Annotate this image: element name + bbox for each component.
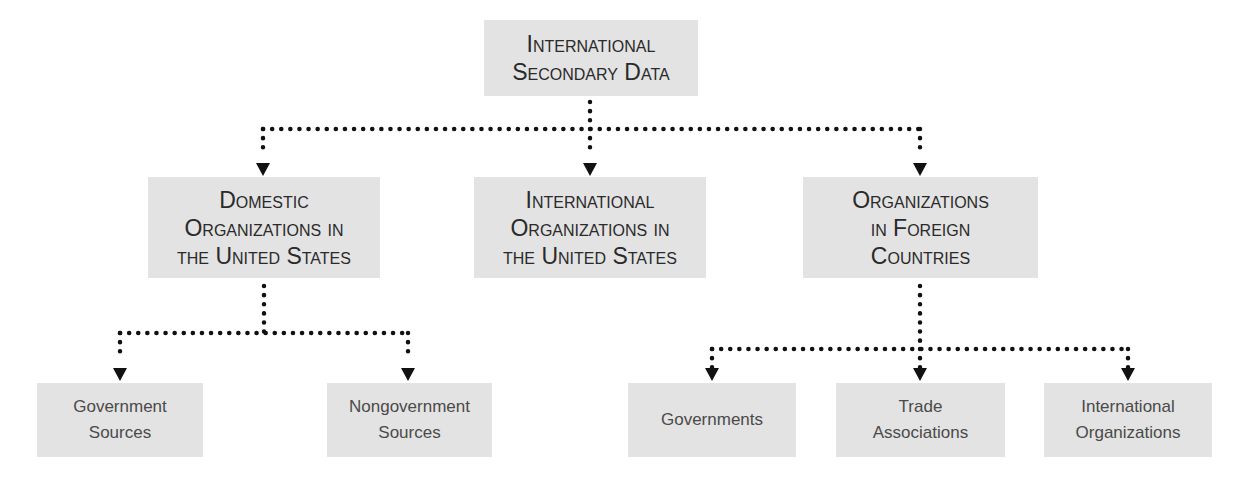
node-international-organizations: International Organizations [1044, 383, 1212, 457]
node-governments: Governments [628, 383, 796, 457]
node-label-line: International [1081, 394, 1175, 420]
arrowhead-icon [113, 368, 127, 381]
node-nongovernment-sources: Nongovernment Sources [327, 383, 492, 457]
node-international-organizations-us: International Organizations in the Unite… [474, 177, 706, 278]
node-label-line: Organizations in [184, 214, 343, 242]
node-label-line: Domestic [219, 186, 309, 214]
node-label-line: Associations [873, 420, 968, 446]
node-label-line: Governments [661, 407, 763, 433]
node-label-line: International [527, 30, 656, 58]
node-label-line: Trade [899, 394, 943, 420]
node-government-sources: Government Sources [37, 383, 203, 457]
arrowhead-icon [705, 368, 719, 381]
arrowhead-icon [256, 163, 270, 176]
node-label-line: Secondary Data [512, 58, 669, 86]
node-label-line: in Foreign [871, 214, 971, 242]
node-label-line: Organizations in [510, 214, 669, 242]
arrowhead-icon [913, 368, 927, 381]
node-trade-associations: Trade Associations [836, 383, 1005, 457]
arrowhead-icon [1121, 368, 1135, 381]
node-label-line: the United States [503, 242, 677, 270]
node-label-line: Government [73, 394, 167, 420]
node-organizations-foreign-countries: Organizations in Foreign Countries [803, 177, 1038, 278]
arrowhead-icon [401, 368, 415, 381]
node-label-line: the United States [177, 242, 351, 270]
arrowhead-icon [913, 163, 927, 176]
node-label-line: Nongovernment [349, 394, 470, 420]
node-label-line: Sources [378, 420, 440, 446]
secondary-data-hierarchy-diagram: International Secondary Data Domestic Or… [0, 0, 1255, 485]
node-label-line: Organizations [1076, 420, 1181, 446]
node-label-line: International [526, 186, 655, 214]
node-international-secondary-data: International Secondary Data [484, 20, 698, 96]
node-label-line: Sources [89, 420, 151, 446]
arrowhead-icon [583, 163, 597, 176]
node-label-line: Countries [871, 242, 970, 270]
node-label-line: Organizations [852, 186, 989, 214]
node-domestic-organizations: Domestic Organizations in the United Sta… [148, 177, 380, 278]
